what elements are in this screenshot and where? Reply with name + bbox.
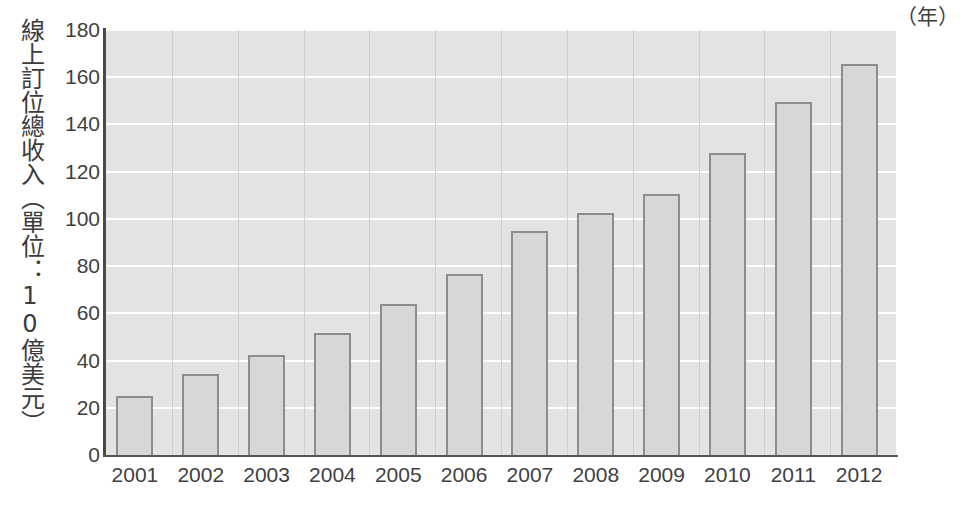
y-axis-tick-labels: 020406080100120140160180 (44, 0, 100, 515)
y-tick-label: 80 (44, 254, 100, 278)
plot-area (106, 30, 896, 455)
category-separator (501, 30, 502, 455)
category-separator (369, 30, 370, 455)
x-tick-label-2009: 2009 (638, 463, 685, 487)
category-separator (238, 30, 239, 455)
bar-2006 (446, 274, 483, 455)
y-tick-label: 60 (44, 301, 100, 325)
bar-2005 (380, 304, 417, 455)
bar-2004 (314, 333, 351, 455)
category-separator (567, 30, 568, 455)
category-separator (699, 30, 700, 455)
x-tick-label-2010: 2010 (704, 463, 751, 487)
bar-2010 (709, 153, 746, 455)
bar-2008 (577, 213, 614, 455)
category-separator (304, 30, 305, 455)
x-axis-unit-label: （年） (896, 0, 959, 30)
category-separator (435, 30, 436, 455)
x-tick-label-2006: 2006 (441, 463, 488, 487)
bar-2011 (775, 102, 812, 455)
category-separator (172, 30, 173, 455)
bar-2007 (511, 231, 548, 455)
category-separator (633, 30, 634, 455)
x-tick-label-2008: 2008 (572, 463, 619, 487)
category-separator (764, 30, 765, 455)
y-tick-label: 100 (44, 207, 100, 231)
y-tick-label: 20 (44, 396, 100, 420)
bar-2003 (248, 355, 285, 455)
bar-2012 (841, 64, 878, 455)
x-axis-tick-labels: 2001200220032004200520062007200820092010… (0, 463, 969, 497)
x-tick-label-2001: 2001 (112, 463, 159, 487)
x-tick-label-2007: 2007 (507, 463, 554, 487)
bar-chart-figure: 線上訂位總收入（單位：10億美元） 0204060801001201401601… (0, 0, 969, 515)
x-tick-label-2002: 2002 (177, 463, 224, 487)
x-tick-label-2012: 2012 (836, 463, 883, 487)
y-tick-label: 120 (44, 160, 100, 184)
y-tick-label: 180 (44, 18, 100, 42)
x-tick-label-2004: 2004 (309, 463, 356, 487)
bar-2001 (116, 396, 153, 455)
bar-2002 (182, 374, 219, 455)
y-tick-label: 140 (44, 112, 100, 136)
x-tick-label-2011: 2011 (771, 463, 816, 487)
y-axis-title: 線上訂位總收入（單位：10億美元） (8, 18, 42, 458)
y-tick-label: 160 (44, 65, 100, 89)
bar-2009 (643, 194, 680, 455)
category-separator (830, 30, 831, 455)
x-tick-label-2005: 2005 (375, 463, 422, 487)
x-tick-label-2003: 2003 (243, 463, 290, 487)
y-tick-label: 40 (44, 349, 100, 373)
x-axis-line (103, 455, 898, 457)
